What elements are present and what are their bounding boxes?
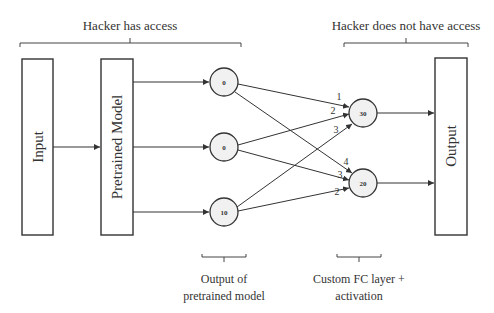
hidden-node: 0 [210,68,238,96]
edge-h3-f2 [238,188,349,211]
weight-h1-f1: 1 [337,91,342,102]
input-label: Input [30,130,46,162]
fc-node: 20 [349,169,377,197]
hacker-no-access-brace [344,38,468,47]
edge-h2-f1 [238,114,349,145]
fc-node: 30 [349,99,377,127]
weight-h2-f1: 2 [331,105,336,116]
input-block: Input [22,59,53,235]
hacker-access-label: Hacker has access [83,18,178,33]
hidden-node: 10 [210,198,238,226]
output-block: Output [435,58,467,235]
fc-layer-label-line2: activation [335,289,382,303]
weight-h2-f2: 3 [338,169,343,180]
pretrained-output-label-line1: Output of [201,272,247,286]
weight-h3-f1: 3 [334,124,339,135]
pretrained-output-label-line2: pretrained model [183,289,265,303]
edge-h2-f2 [238,150,349,180]
output-label: Output [443,124,459,167]
hidden-node-value: 0 [222,144,226,152]
fc-node-value: 20 [360,180,368,188]
weight-h3-f2: 2 [335,186,340,197]
hacker-no-access-label: Hacker does not have access [332,18,481,33]
hacker-access-brace [20,38,241,47]
network-diagram: Hacker has access Hacker does not have a… [0,0,494,313]
fc-layer-label-line1: Custom FC layer + [313,272,405,286]
pretrained-output-brace [202,254,246,262]
fc-node-value: 30 [360,110,368,118]
pretrained-model-label: Pretrained Model [109,95,125,200]
hidden-node: 0 [210,133,238,161]
hidden-node-value: 0 [222,79,226,87]
fc-layer-brace [337,254,381,262]
hidden-node-value: 10 [221,209,229,217]
weight-h1-f2: 4 [344,156,349,167]
edge-h1-f1 [238,84,349,107]
pretrained-model-block: Pretrained Model [101,59,133,235]
